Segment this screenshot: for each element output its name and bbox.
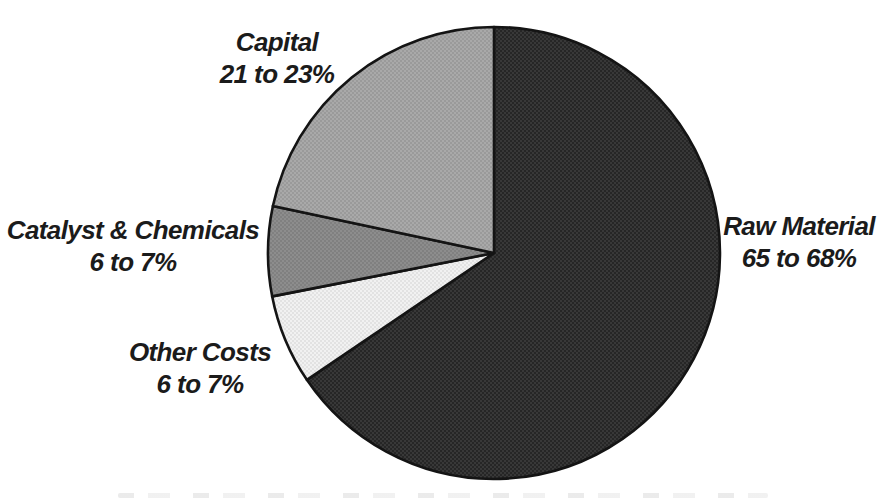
- slice-label-range: 6 to 7%: [7, 247, 259, 279]
- slice-label-other-costs: Other Costs 6 to 7%: [129, 337, 271, 400]
- slice-label-range: 65 to 68%: [723, 243, 875, 275]
- slice-label-text: Raw Material: [723, 211, 875, 243]
- slice-label-range: 21 to 23%: [220, 59, 335, 91]
- slice-label-catalyst-chemicals: Catalyst & Chemicals 6 to 7%: [7, 215, 259, 278]
- figure-canvas: Capital 21 to 23% Raw Material 65 to 68%…: [0, 0, 887, 500]
- slice-label-range: 6 to 7%: [129, 369, 271, 401]
- slice-label-capital: Capital 21 to 23%: [220, 27, 335, 90]
- pie-slices: [268, 27, 720, 479]
- scan-artifact: [118, 493, 768, 498]
- slice-label-text: Capital: [220, 27, 335, 59]
- slice-label-raw-material: Raw Material 65 to 68%: [723, 211, 875, 274]
- slice-label-text: Catalyst & Chemicals: [7, 215, 259, 247]
- slice-label-text: Other Costs: [129, 337, 271, 369]
